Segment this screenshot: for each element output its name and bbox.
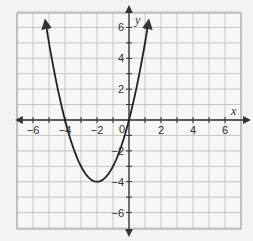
y-tick-label: −4 <box>111 176 124 188</box>
origin-label: 0 <box>119 123 125 135</box>
coordinate-plane: −6−4−2246−6−4−2246 x y 0 <box>0 0 253 241</box>
x-tick-label: 6 <box>222 124 228 136</box>
y-tick-label: −6 <box>111 207 124 219</box>
x-tick-label: −2 <box>91 124 104 136</box>
y-tick-label: 6 <box>118 21 124 33</box>
x-tick-label: 4 <box>190 124 196 136</box>
y-tick-label: 4 <box>118 52 124 64</box>
x-axis-label: x <box>230 104 237 118</box>
x-tick-label: 2 <box>158 124 164 136</box>
y-axis-label: y <box>134 13 141 27</box>
x-tick-label: −6 <box>27 124 40 136</box>
y-tick-label: 2 <box>118 83 124 95</box>
